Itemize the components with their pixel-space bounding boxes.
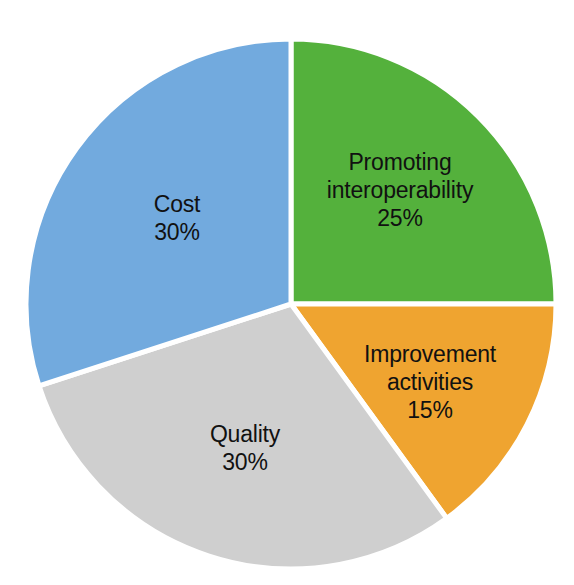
pie-slice-promoting-interoperability[interactable]: [291, 39, 556, 304]
pie-chart-figure: Promoting interoperability 25% Improveme…: [0, 0, 574, 585]
pie-chart-svg: [0, 0, 574, 585]
pie-slice-group: [26, 39, 556, 569]
